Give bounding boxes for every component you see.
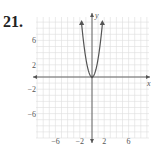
x-tick-label: 2 xyxy=(102,137,106,146)
y-axis-down-arrow-icon xyxy=(90,139,94,143)
y-axis-label: y xyxy=(94,11,99,20)
y-tick-label: 6 xyxy=(32,36,36,45)
x-axis-label: x xyxy=(146,79,151,88)
x-tick-label: 6 xyxy=(127,137,131,146)
y-tick-label: −6 xyxy=(27,110,36,119)
y-tick-label: 2 xyxy=(32,61,36,70)
x-tick-label: −6 xyxy=(51,137,60,146)
vertex-point xyxy=(91,76,94,79)
y-tick-label: −2 xyxy=(27,85,36,94)
y-axis-up-arrow-icon xyxy=(90,13,94,17)
x-axis-left-arrow-icon xyxy=(33,75,37,79)
graph: xy−6−22662−2−6 xyxy=(0,0,154,153)
x-tick-label: −2 xyxy=(76,137,85,146)
